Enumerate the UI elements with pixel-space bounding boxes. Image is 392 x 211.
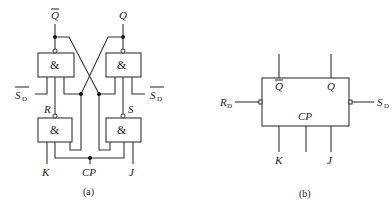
gate-top-right-inversion-bubble (121, 49, 125, 53)
gate-top-left-inversion-bubble (53, 49, 57, 53)
rd-inversion-marker (259, 100, 262, 104)
sd-right-input-wire (132, 77, 145, 94)
cp-bus-wire (55, 142, 124, 158)
gate-top-right-symbol: & (117, 58, 127, 72)
top-left-feedback-input (64, 77, 81, 94)
j-label-b: J (327, 154, 333, 166)
j-label: J (129, 166, 135, 178)
jk-flip-flop-diagram: Q Q & & S D S D R (0, 0, 392, 211)
rd-label: R (219, 96, 227, 108)
gate-bottom-left-symbol: & (50, 123, 60, 137)
qbar-label-b: Q (275, 80, 283, 92)
s-label: S (128, 103, 134, 115)
q-label-b: Q (327, 80, 335, 92)
k-label: K (41, 166, 50, 178)
caption-b: (b) (299, 188, 311, 200)
sd-inversion-marker (349, 100, 352, 104)
sd-label-b: S (377, 96, 383, 108)
caption-a: (a) (83, 186, 94, 198)
r-label: R (43, 103, 51, 115)
sd-subscript-b: D (384, 102, 389, 110)
sd-left-subscript: D (22, 95, 27, 103)
panel-b-logic-symbol: Q Q R D S D CP K J (b) (219, 54, 389, 200)
k-label-b: K (274, 154, 283, 166)
q-label: Q (119, 9, 127, 21)
gate-top-left-symbol: & (50, 58, 60, 72)
rd-subscript: D (227, 102, 232, 110)
qbar-label: Q (51, 9, 59, 21)
sd-left-label: S (15, 89, 21, 101)
sd-right-subscript: D (157, 95, 162, 103)
gate-bottom-left-inversion-bubble (53, 114, 57, 118)
left-junction-dot (79, 92, 83, 96)
panel-a-logic-circuit: Q Q & & S D S D R (15, 9, 164, 198)
cp-label: CP (82, 166, 96, 178)
sd-left-input-wire (35, 77, 47, 94)
right-junction-dot (97, 92, 101, 96)
top-right-feedback-input (99, 77, 115, 94)
sd-right-label: S (150, 89, 156, 101)
gate-bottom-right-symbol: & (117, 123, 127, 137)
gate-bottom-right-inversion-bubble (121, 114, 125, 118)
cp-label-b: CP (298, 110, 312, 122)
cp-junction-dot (88, 156, 92, 160)
